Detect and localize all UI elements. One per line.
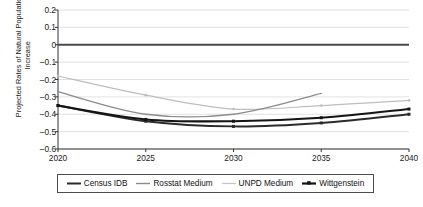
series-marker [232,125,235,128]
legend-swatch-icon [222,179,236,188]
series-marker [320,104,323,107]
series-marker [408,108,411,111]
series-marker [408,99,411,102]
series-marker [57,75,60,78]
series-marker [232,120,235,123]
series-marker [144,94,147,97]
series-marker [144,118,147,121]
series-marker [232,108,235,111]
legend-label: Census IDB [84,179,128,188]
legend-item[interactable]: Wittgenstein [302,179,364,188]
series-marker [320,121,323,124]
legend-swatch-icon [67,179,81,188]
legend-label: Rosstat Medium [153,179,212,188]
series-line [57,104,411,128]
series-marker [320,116,323,119]
legend-label: Wittgenstein [319,179,364,188]
legend-swatch-icon [302,179,316,188]
series-marker [57,104,60,107]
legend-label: UNPD Medium [239,179,294,188]
legend-swatch-icon [136,179,150,188]
legend-item[interactable]: Census IDB [67,179,128,188]
chart-legend: Census IDBRosstat MediumUNPD MediumWittg… [57,174,374,193]
series-line [57,75,411,111]
series-path-unpd-medium [58,76,409,109]
legend-item[interactable]: Rosstat Medium [136,179,212,188]
series-marker [408,113,411,116]
legend-item[interactable]: UNPD Medium [222,179,294,188]
